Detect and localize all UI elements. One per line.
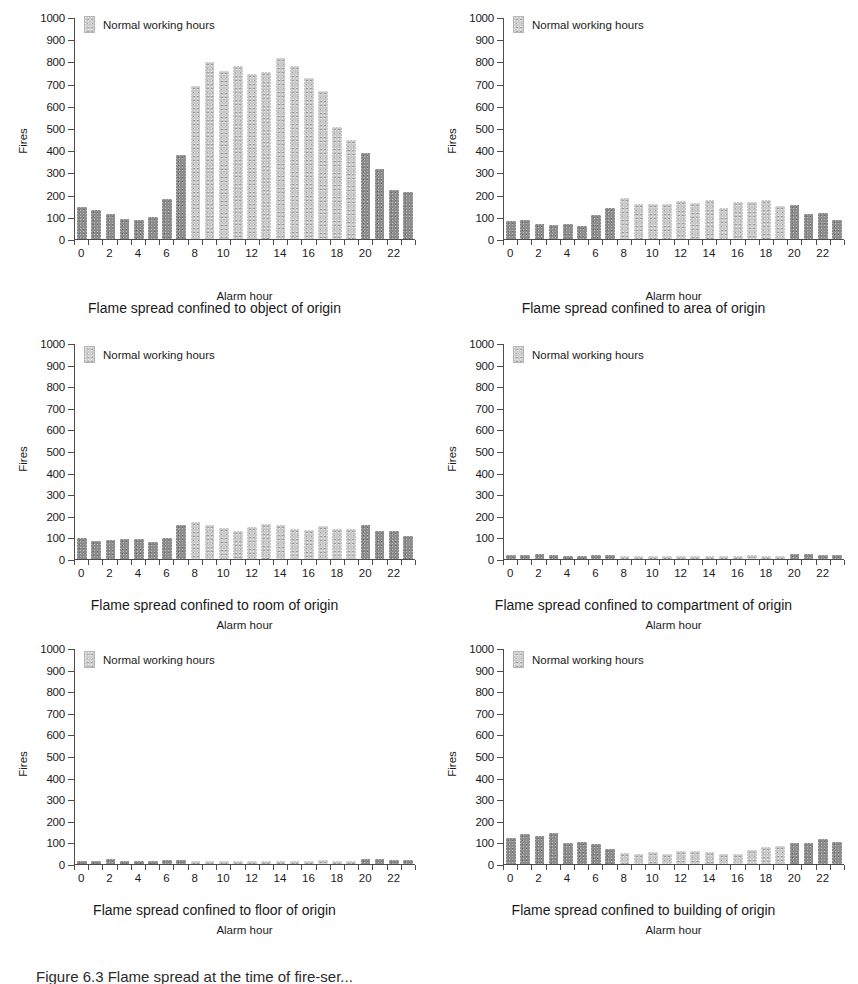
x-axis-tick-label: 2: [535, 567, 541, 579]
bar: [290, 529, 300, 559]
bar: [775, 206, 785, 239]
bar: [332, 127, 342, 239]
bar: [705, 852, 715, 864]
bar-series: [504, 649, 844, 864]
x-axis-tick-label: 8: [621, 247, 627, 259]
x-axis-tick: [131, 560, 132, 565]
x-axis-tick: [401, 560, 402, 565]
y-axis-tick-label: 600: [46, 424, 65, 436]
bar: [106, 214, 116, 239]
bar: [77, 861, 87, 864]
x-axis-tick: [645, 865, 646, 870]
panel-title: Flame spread confined to floor of origin: [0, 902, 429, 918]
x-axis-tick-label: 14: [703, 872, 716, 884]
y-axis-tick: [497, 800, 503, 801]
y-axis-tick: [497, 18, 503, 19]
legend-swatch-icon: [513, 16, 524, 33]
x-axis-tick: [801, 865, 802, 870]
y-axis-tick-label: 800: [46, 381, 65, 393]
x-axis-tick: [816, 865, 817, 870]
x-axis-tick: [173, 240, 174, 245]
x-axis-tick: [674, 240, 675, 245]
y-axis-tick: [68, 452, 74, 453]
bar: [276, 58, 286, 239]
bar: [106, 859, 116, 864]
bar: [162, 199, 172, 239]
x-axis-tick: [546, 240, 547, 245]
x-axis-tick-label: 20: [788, 567, 801, 579]
bar: [261, 72, 271, 239]
bar: [563, 224, 573, 239]
legend: Normal working hours: [513, 16, 644, 33]
x-axis-tick: [816, 240, 817, 245]
legend: Normal working hours: [84, 346, 215, 363]
bar-series: [504, 18, 844, 239]
panel-title: Flame spread confined to compartment of …: [429, 597, 858, 613]
y-axis-tick-label: 600: [46, 101, 65, 113]
bar: [290, 861, 300, 864]
bar: [176, 860, 186, 864]
bar: [318, 91, 328, 239]
x-axis-tick-label: 10: [646, 567, 659, 579]
y-axis-tick-label: 900: [46, 665, 65, 677]
y-axis-tick-label: 1000: [469, 12, 494, 24]
legend-swatch-icon: [84, 651, 95, 668]
x-axis-tick: [287, 560, 288, 565]
x-axis-tick-label: 12: [674, 247, 687, 259]
x-axis-tick-label: 20: [359, 567, 372, 579]
bar: [761, 200, 771, 239]
bar: [591, 555, 601, 559]
x-axis-tick-label: 22: [387, 247, 400, 259]
bar: [620, 853, 630, 864]
y-axis-tick-label: 900: [475, 360, 494, 372]
chart-area: Fires Normal working hours 0100200300400…: [429, 330, 858, 588]
bar: [304, 861, 314, 864]
y-axis-tick: [497, 474, 503, 475]
x-axis-tick-label: 4: [564, 247, 570, 259]
y-axis-tick: [497, 495, 503, 496]
x-axis-tick: [273, 865, 274, 870]
y-axis-tick: [68, 671, 74, 672]
bar: [535, 224, 545, 239]
x-axis-tick: [588, 865, 589, 870]
y-axis-tick: [68, 517, 74, 518]
plot: 0100200300400500600700800900100002468101…: [74, 649, 415, 865]
x-axis-tick-label: 16: [302, 247, 315, 259]
x-axis-tick-label: 6: [163, 872, 169, 884]
x-axis-tick-label: 8: [192, 872, 198, 884]
x-axis-tick: [74, 240, 75, 245]
bar: [605, 208, 615, 239]
bar: [247, 74, 257, 239]
y-axis-title: Fires: [17, 446, 29, 472]
x-axis-tick: [301, 240, 302, 245]
bar: [346, 140, 356, 239]
bar: [134, 861, 144, 864]
y-axis-tick-label: 500: [475, 123, 494, 135]
bar: [832, 555, 842, 559]
x-axis-tick: [230, 560, 231, 565]
bar: [577, 842, 587, 864]
y-axis-tick: [497, 430, 503, 431]
y-axis-tick-label: 100: [46, 212, 65, 224]
y-axis-tick: [497, 62, 503, 63]
x-axis-tick: [202, 560, 203, 565]
y-axis-tick: [497, 85, 503, 86]
x-axis-tick: [773, 560, 774, 565]
x-axis-tick-label: 10: [217, 872, 230, 884]
chart-panel-room-of-origin: Fires Normal working hours 0100200300400…: [0, 330, 429, 635]
x-axis-tick: [131, 240, 132, 245]
x-axis-tick: [787, 240, 788, 245]
x-axis-tick: [574, 240, 575, 245]
y-axis-tick-label: 800: [475, 381, 494, 393]
x-axis-tick-label: 16: [302, 567, 315, 579]
y-axis-tick-label: 800: [46, 56, 65, 68]
x-axis-tick: [273, 560, 274, 565]
y-axis-tick: [497, 409, 503, 410]
chart-panel-floor-of-origin: Fires Normal working hours 0100200300400…: [0, 635, 429, 940]
bar: [148, 217, 158, 239]
x-axis-tick: [574, 865, 575, 870]
x-axis-tick: [645, 240, 646, 245]
x-axis-tick-label: 0: [507, 872, 513, 884]
y-axis-tick: [497, 218, 503, 219]
y-axis-tick-label: 700: [475, 403, 494, 415]
